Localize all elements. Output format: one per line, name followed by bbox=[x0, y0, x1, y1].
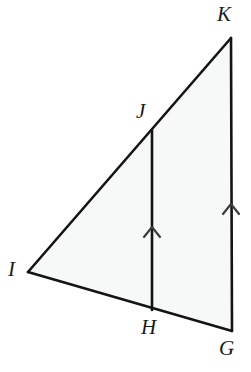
triangle-interior-IKG bbox=[28, 38, 232, 331]
segment-KG bbox=[231, 38, 232, 331]
vertex-label-I: I bbox=[8, 259, 15, 280]
vertex-label-K: K bbox=[217, 4, 231, 25]
vertex-label-G: G bbox=[219, 338, 234, 359]
vertex-label-H: H bbox=[141, 317, 156, 338]
vertex-label-J: J bbox=[136, 101, 145, 122]
geometry-canvas bbox=[0, 0, 251, 372]
geometry-figure: K J I H G bbox=[0, 0, 251, 372]
